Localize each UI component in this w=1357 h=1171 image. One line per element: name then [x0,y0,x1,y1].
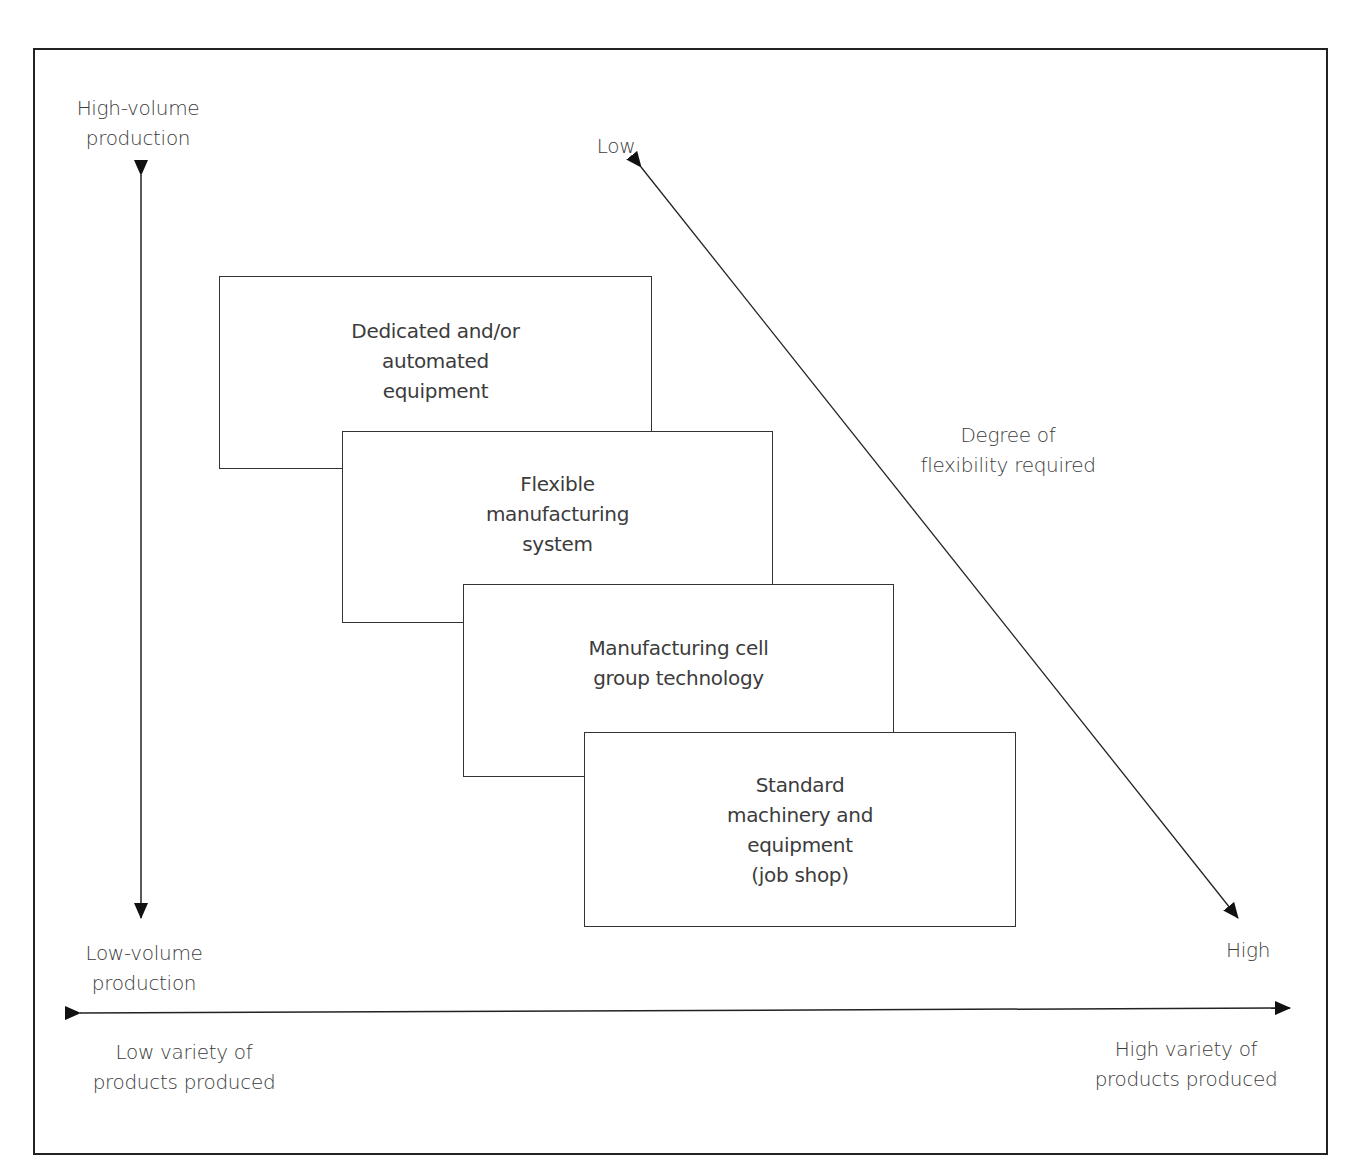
box-label: Standard machinery and equipment (job sh… [585,770,1015,890]
low-volume-label: Low-volume production [76,938,212,998]
variety-axis-arrow [80,1008,1290,1013]
flexibility-high-label: High [1218,935,1278,965]
box-standard-machinery: Standard machinery and equipment (job sh… [584,732,1016,927]
flexibility-title: Degree of flexibility required [910,420,1106,480]
box-label: Manufacturing cell group technology [464,633,893,693]
box-label: Flexible manufacturing system [343,469,772,559]
high-volume-label: High-volume production [70,93,206,153]
high-variety-label: High variety of products produced [1086,1034,1286,1094]
low-variety-label: Low variety of products produced [84,1037,284,1097]
flexibility-low-label: Low [590,131,642,161]
box-label: Dedicated and/or automated equipment [220,316,651,406]
